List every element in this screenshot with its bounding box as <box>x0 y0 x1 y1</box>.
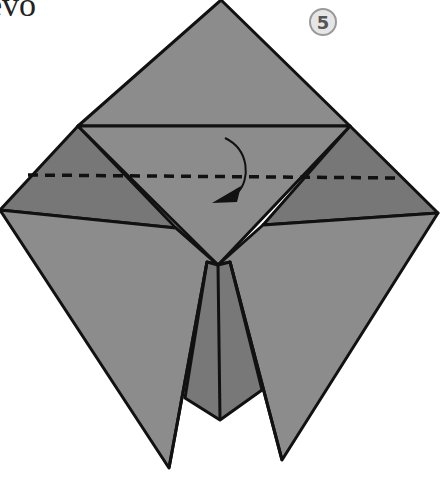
paper-top-panel <box>78 0 350 126</box>
paper-left-wing <box>0 210 218 468</box>
tail-center-crease <box>218 265 220 420</box>
origami-diagram <box>0 0 445 495</box>
